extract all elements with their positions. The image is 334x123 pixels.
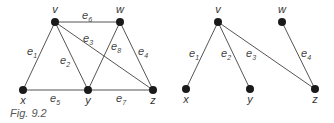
figure-caption: Fig. 9.2	[10, 107, 47, 119]
edge-label-e2: e2	[60, 54, 70, 68]
tree-edge-label-e2: e2	[221, 47, 231, 61]
edge-label-e8: e8	[111, 40, 121, 54]
tree-vertex-label-x: x	[182, 93, 189, 105]
tree-vertex-v	[214, 18, 222, 26]
vertex-v	[51, 18, 59, 26]
spanning-tree: v w x y z e1 e2 e3 e4	[182, 3, 319, 105]
tree-vertex-w	[278, 18, 286, 26]
edge-e4	[120, 22, 153, 90]
vertex-z	[149, 86, 157, 94]
vertex-y	[84, 86, 92, 94]
vertex-w	[116, 18, 124, 26]
edge-label-e3: e3	[83, 32, 93, 46]
vertex-label-v: v	[52, 3, 59, 15]
tree-vertex-label-y: y	[246, 93, 254, 105]
vertex-label-x: x	[19, 94, 26, 106]
vertex-x	[19, 86, 27, 94]
edge-label-e6: e6	[82, 9, 92, 23]
tree-edge-label-e1: e1	[189, 47, 199, 61]
tree-vertex-x	[182, 85, 190, 93]
tree-vertex-label-z: z	[311, 93, 318, 105]
vertex-label-y: y	[84, 94, 92, 106]
edge-label-e1: e1	[27, 45, 37, 59]
tree-vertex-y	[246, 85, 254, 93]
edge-label-e4: e4	[138, 45, 148, 59]
tree-edge-label-e4: e4	[301, 47, 311, 61]
tree-vertex-z	[311, 85, 319, 93]
graph-g: v w x y z e1 e2 e3 e4 e5 e6 e7 e8	[19, 3, 157, 106]
vertex-label-z: z	[149, 94, 156, 106]
tree-edge-label-e3: e3	[246, 47, 256, 61]
figure-canvas: v w x y z e1 e2 e3 e4 e5 e6 e7 e8 v w x …	[0, 0, 334, 123]
edge-label-e7: e7	[116, 92, 127, 106]
edge-e8	[88, 22, 120, 90]
vertex-label-w: w	[116, 3, 125, 15]
edge-label-e5: e5	[50, 92, 60, 106]
tree-vertex-label-v: v	[215, 3, 222, 15]
tree-vertex-label-w: w	[278, 3, 287, 15]
